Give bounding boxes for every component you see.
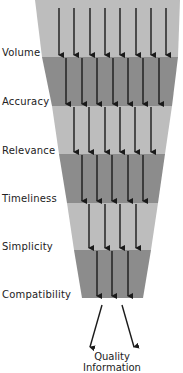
output-label-line1: Quality	[72, 351, 152, 362]
stage-label-volume: Volume	[2, 47, 40, 58]
output-arrow-icon	[122, 305, 134, 347]
funnel-band-simplicity	[67, 203, 158, 250]
output-label-line2: Information	[72, 362, 152, 373]
output-arrow-icon	[90, 305, 102, 347]
funnel-band-accuracy	[42, 57, 178, 106]
stage-label-compatibility: Compatibility	[2, 289, 71, 300]
funnel-band-volume	[35, 0, 180, 57]
output-arrows	[90, 305, 134, 347]
stage-label-relevance: Relevance	[2, 145, 55, 156]
stage-label-accuracy: Accuracy	[2, 96, 49, 107]
funnel-bands	[35, 0, 180, 298]
stage-label-timeliness: Timeliness	[2, 193, 57, 204]
funnel-band-relevance	[52, 106, 172, 154]
output-label: Quality Information	[72, 351, 152, 373]
stage-label-simplicity: Simplicity	[2, 241, 53, 252]
